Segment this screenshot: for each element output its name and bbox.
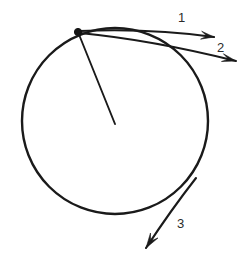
vector-1-label: 1 <box>178 10 185 25</box>
vector-2-label: 2 <box>217 40 224 55</box>
vector-3-shaft <box>146 178 196 248</box>
vector-3-label: 3 <box>177 216 184 231</box>
radius-segment <box>78 32 115 124</box>
diagram-canvas: 1 2 3 <box>0 0 252 261</box>
circular-path <box>22 28 208 214</box>
point-on-circle-marker <box>74 28 81 35</box>
vector-diagram-svg: 1 2 3 <box>0 0 252 261</box>
vector-3-arrowhead <box>146 233 158 248</box>
